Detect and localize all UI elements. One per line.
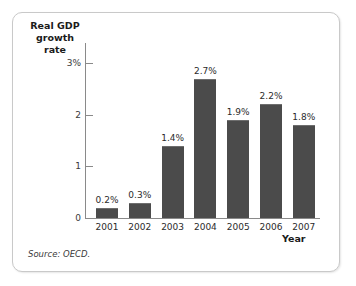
y-axis-title-line1: Real GDP <box>26 20 84 32</box>
y-tick-mark-0 <box>86 218 93 219</box>
bar-2007 <box>293 125 315 218</box>
x-tick-label-2001: 2001 <box>89 222 125 232</box>
bar-2005 <box>227 120 249 218</box>
bar-value-label-2003: 1.4% <box>154 134 192 143</box>
y-tick-label-0: 0 <box>50 214 81 223</box>
x-tick-label-2002: 2002 <box>122 222 158 232</box>
y-axis-line <box>85 43 86 219</box>
bar-2002 <box>129 203 151 218</box>
bar-value-label-2005: 1.9% <box>219 108 257 117</box>
x-tick-label-2007: 2007 <box>286 222 322 232</box>
y-tick-label-1: 1 <box>50 162 81 171</box>
bar-2001 <box>96 208 118 218</box>
bar-2006 <box>260 104 282 218</box>
y-tick-mark-3 <box>86 63 93 64</box>
bar-2003 <box>162 146 184 218</box>
bar-value-label-2002: 0.3% <box>121 191 159 200</box>
bar-2004 <box>194 79 216 218</box>
x-tick-label-2005: 2005 <box>220 222 256 232</box>
bar-value-label-2006: 2.2% <box>252 92 290 101</box>
source-note: Source: OECD. <box>28 249 90 259</box>
x-axis-title: Year <box>282 233 306 244</box>
y-tick-label-2: 2 <box>50 111 81 120</box>
y-axis-title-line2: growth rate <box>26 32 84 56</box>
x-tick-label-2004: 2004 <box>187 222 223 232</box>
y-tick-mark-2 <box>86 115 93 116</box>
bar-chart: Real GDP growth rate 3% 2 1 0 0.2%20010.… <box>0 0 356 286</box>
y-tick-label-3: 3% <box>50 59 81 68</box>
x-tick-label-2006: 2006 <box>253 222 289 232</box>
x-tick-label-2003: 2003 <box>155 222 191 232</box>
y-tick-mark-1 <box>86 166 93 167</box>
bar-value-label-2007: 1.8% <box>285 113 323 122</box>
y-axis-title: Real GDP growth rate <box>26 20 84 56</box>
x-axis-line <box>85 218 320 219</box>
bar-value-label-2004: 2.7% <box>186 67 224 76</box>
